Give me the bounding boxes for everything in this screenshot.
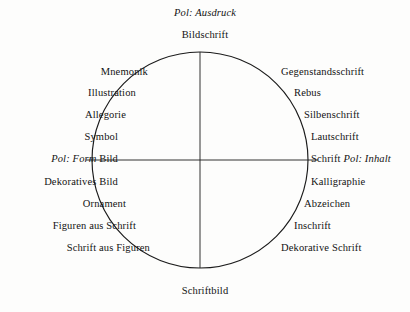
top-pole-caption: Pol: Ausdruck — [174, 8, 236, 19]
bottom-pole-term: Schriftbild — [182, 286, 229, 297]
left-column-label: Allegorie — [85, 110, 126, 121]
right-column-label: Lautschrift — [311, 132, 359, 143]
left-column-label: Dekoratives Bild — [44, 177, 118, 188]
right-column-label: Abzeichen — [304, 199, 350, 210]
left-column-label: Symbol — [84, 132, 118, 143]
left-column-label: Mnemonik — [101, 67, 148, 78]
left-column-label: Illustration — [88, 88, 136, 99]
right-pole-label: Schrift Pol: Inhalt — [311, 154, 391, 165]
left-column-label: Ornament — [83, 199, 126, 210]
top-pole-term: Bildschrift — [182, 30, 229, 41]
right-column-label: Rebus — [294, 88, 321, 99]
left-column-label: Schrift aus Figuren — [67, 243, 150, 254]
left-column-label: Figuren aus Schrift — [53, 221, 136, 232]
right-column-label: Inschrift — [294, 221, 331, 232]
left-pole-caption: Pol: Form — [51, 153, 96, 164]
left-pole-term: Bild — [99, 153, 118, 164]
right-pole-caption: Pol: Inhalt — [343, 153, 390, 164]
right-column-label: Dekorative Schrift — [281, 243, 362, 254]
right-pole-term: Schrift — [311, 153, 341, 164]
right-column-label: Gegenstandsschrift — [281, 67, 364, 78]
left-pole-label: Pol: Form Bild — [51, 154, 118, 165]
right-column-label: Silbenschrift — [304, 110, 360, 121]
right-column-label: Kalligraphie — [311, 177, 365, 188]
